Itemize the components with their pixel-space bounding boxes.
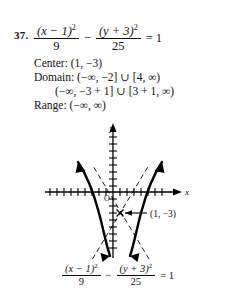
- answer-center: Center: (1, −3): [34, 57, 102, 70]
- center-point-marker: [117, 210, 124, 217]
- minus-operator: −: [84, 31, 91, 46]
- answer-range: Range: (−∞, ∞): [34, 99, 106, 112]
- fraction-x-term-top: (x − 1)2 9: [34, 24, 79, 54]
- exponent: 2: [134, 23, 138, 32]
- hyperbola-graph: y x O (1, −3): [30, 118, 210, 263]
- equation-top: (x − 1)2 9 − (y + 3)2 25 = 1: [32, 24, 165, 54]
- exponent: 2: [72, 23, 76, 32]
- fraction-numerator: (x − 1)2: [34, 24, 79, 38]
- problem-figure-page: 37. (x − 1)2 9 − (y + 3)2 25 = 1 Center:…: [0, 0, 227, 299]
- answer-domain: Domain: (−∞, −2] ∪ [4, ∞): [34, 71, 160, 84]
- fraction-x-term-bottom: (x − 1)2 9: [62, 263, 101, 288]
- center-point-label: (1, −3): [150, 209, 176, 220]
- fraction-numerator: (y + 3)2: [96, 24, 141, 38]
- equals-one: = 1: [146, 31, 162, 46]
- x-axis-label: x: [184, 187, 189, 197]
- y-axis-label: y: [109, 123, 114, 133]
- fraction-denominator: 9: [76, 276, 87, 288]
- equation-bottom: (x − 1)2 9 − (y + 3)2 25 = 1: [60, 263, 177, 288]
- fraction-denominator: 25: [109, 39, 128, 53]
- answer-domain-continued: (−∞, −3 + 1] ∪ [3 + 1, ∞): [55, 85, 174, 98]
- origin-label: O: [104, 194, 110, 203]
- problem-number: 37.: [14, 29, 28, 41]
- fraction-numerator: (x − 1)2: [62, 263, 101, 275]
- fraction-numerator: (y + 3)2: [117, 263, 156, 275]
- exponent: 2: [149, 262, 152, 269]
- fraction-y-term-top: (y + 3)2 25: [96, 24, 141, 54]
- exponent: 2: [94, 262, 97, 269]
- hyperbola-left-branch: [76, 162, 111, 262]
- equals-one: = 1: [160, 270, 174, 281]
- y-axis: [110, 123, 117, 258]
- center-leader-arrow: [125, 210, 147, 216]
- fraction-denominator: 25: [128, 276, 145, 288]
- minus-operator: −: [106, 270, 112, 281]
- fraction-y-term-bottom: (y + 3)2 25: [117, 263, 156, 288]
- fraction-denominator: 9: [50, 39, 62, 53]
